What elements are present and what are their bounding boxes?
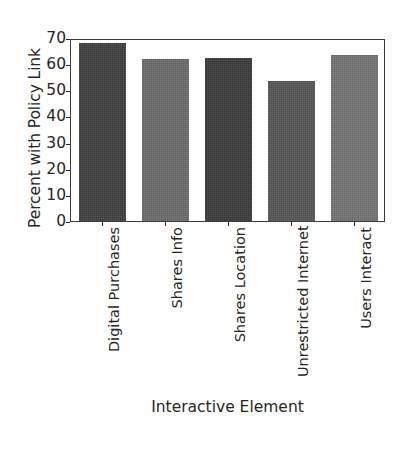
x-tick-label: Shares Info: [170, 227, 185, 377]
x-tick-mark: [165, 222, 166, 226]
plot-area: [70, 39, 385, 222]
bar: [268, 81, 315, 221]
x-axis-label: Interactive Element: [70, 398, 385, 416]
bar: [331, 55, 378, 221]
bar-chart-figure: Percent with Policy Link 010203040506070…: [0, 0, 409, 449]
x-tick-label: Digital Purchases: [107, 227, 122, 377]
y-tick-label: 0: [36, 214, 66, 230]
y-tick-label: 40: [36, 110, 66, 126]
y-tick-label: 30: [36, 136, 66, 152]
x-tick-mark: [354, 222, 355, 226]
x-tick-label: Shares Location: [233, 227, 248, 377]
bar: [79, 43, 126, 221]
y-tick-label: 60: [36, 57, 66, 73]
y-axis-ticks: 010203040506070: [36, 39, 66, 222]
y-tick-label: 10: [36, 188, 66, 204]
bar: [142, 59, 189, 221]
x-tick-mark: [102, 222, 103, 226]
bar: [205, 58, 252, 221]
x-tick-label: Unrestricted Internet: [296, 227, 311, 377]
x-tick-mark: [228, 222, 229, 226]
y-tick-label: 70: [36, 31, 66, 47]
y-tick-label: 50: [36, 84, 66, 100]
y-tick-label: 20: [36, 162, 66, 178]
x-axis-ticks: Digital PurchasesShares InfoShares Locat…: [70, 227, 385, 377]
x-tick-label: Users Interact: [359, 227, 374, 377]
bars-container: [71, 40, 384, 221]
x-tick-mark: [291, 222, 292, 226]
